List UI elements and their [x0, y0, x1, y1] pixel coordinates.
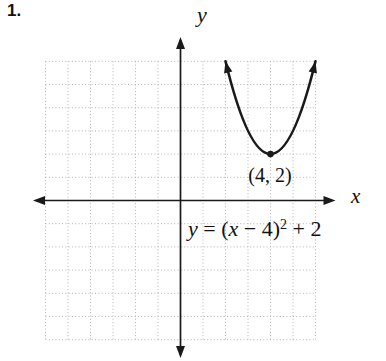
equation-mid2: − 4): [238, 216, 280, 241]
parabola-arrow-left: [224, 61, 232, 73]
axes: [33, 37, 336, 358]
y-axis-arrow-top: [176, 37, 185, 49]
x-axis-label: x: [351, 186, 360, 207]
figure-parabola-problem: 1. y x (4, 2) y = (x − 4)2 + 2: [0, 0, 386, 361]
vertex-point: [267, 151, 274, 158]
parabola-arrow-right: [309, 61, 317, 73]
graph-canvas: [0, 0, 386, 361]
x-axis-arrow-left: [33, 196, 45, 205]
equation-var-x: x: [229, 216, 239, 241]
equation-superscript: 2: [280, 217, 287, 232]
equation-tail: + 2: [287, 216, 321, 241]
vertex-coordinate-label: (4, 2): [248, 164, 291, 187]
equation-label: y = (x − 4)2 + 2: [188, 216, 321, 242]
equation-mid1: = (: [198, 216, 229, 241]
y-axis-label: y: [197, 4, 207, 26]
y-axis-arrow-bottom: [176, 346, 185, 358]
equation-var-y: y: [188, 216, 198, 241]
x-axis-arrow-right: [324, 196, 336, 205]
